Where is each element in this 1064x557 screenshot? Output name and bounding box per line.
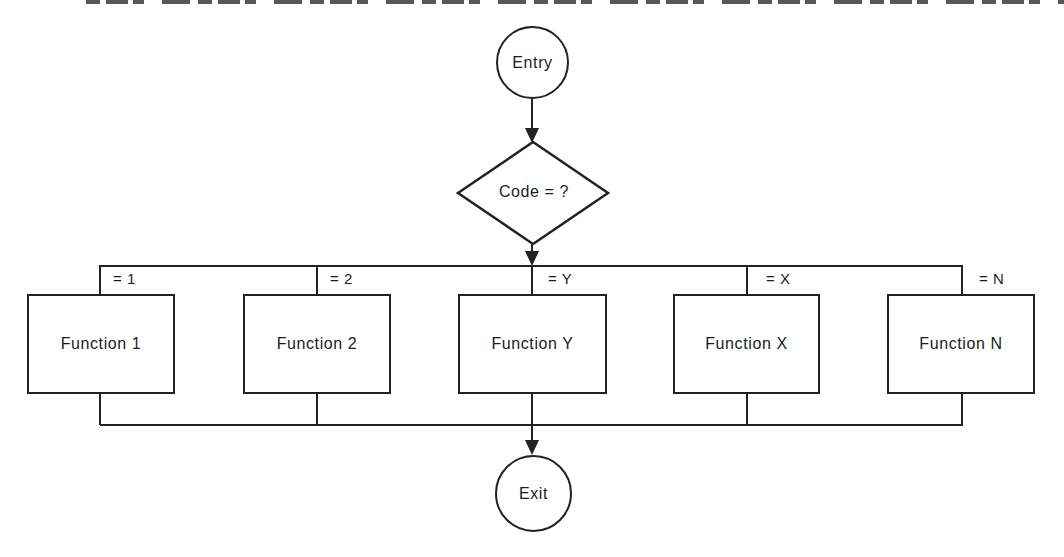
branch-1-return-line (99, 394, 101, 425)
branch-1-condition: = 1 (113, 270, 136, 290)
branch-y-drop-line (531, 265, 533, 295)
branch-y-return-line (531, 394, 533, 425)
branch-2-drop-line (316, 265, 318, 295)
branch-n-drop-line (961, 265, 963, 295)
branch-x-return-line (746, 394, 748, 425)
branch-1-drop-line (99, 265, 101, 295)
branch-2-condition: = 2 (330, 270, 353, 290)
function-n-label: Function N (919, 335, 1002, 353)
function-2-label: Function 2 (277, 335, 358, 353)
exit-label: Exit (519, 485, 548, 503)
connector-bus-to-exit (531, 426, 533, 441)
arrowhead-into-bus-icon (525, 251, 539, 266)
function-1-label: Function 1 (61, 335, 142, 353)
cropped-text-fragment (86, 0, 1064, 4)
arrowhead-into-exit-icon (525, 440, 539, 455)
function-y-box: Function Y (458, 294, 607, 394)
branch-x-drop-line (746, 265, 748, 295)
branch-2-return-line (316, 394, 318, 425)
function-x-box: Function X (673, 294, 820, 394)
entry-label: Entry (512, 54, 552, 72)
connector-entry-to-decision (531, 99, 533, 129)
branch-n-return-line (961, 394, 963, 425)
decision-label: Code = ? (458, 183, 610, 201)
exit-node: Exit (495, 455, 572, 532)
branch-y-condition: = Y (548, 270, 572, 290)
function-2-box: Function 2 (243, 294, 391, 394)
function-n-box: Function N (887, 294, 1035, 394)
function-1-box: Function 1 (27, 294, 175, 394)
entry-node: Entry (496, 26, 569, 99)
branch-n-condition: = N (979, 270, 1004, 290)
branch-x-condition: = X (766, 270, 790, 290)
function-y-label: Function Y (491, 335, 573, 353)
function-x-label: Function X (705, 335, 787, 353)
flowchart-canvas: Entry Code = ? = 1 Function 1 = 2 Functi… (0, 0, 1064, 557)
